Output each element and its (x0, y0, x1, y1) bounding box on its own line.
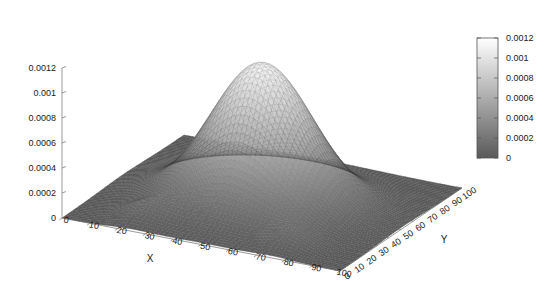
x-tick-label: 70 (255, 251, 267, 263)
z-tick-label: 0.0002 (28, 188, 56, 198)
colorbar-tick-label: 0.0004 (506, 113, 534, 123)
x-tick-label: 30 (144, 230, 156, 242)
z-tick-label: 0.0012 (28, 63, 56, 73)
z-tick-label: 0.0006 (28, 138, 56, 148)
colorbar-tick-label: 0.0012 (506, 33, 534, 43)
colorbar-tick-label: 0.0008 (506, 73, 534, 83)
x-tick-label: 90 (311, 262, 323, 274)
colorbar-tick-label: 0 (506, 153, 511, 163)
colorbar-tick-label: 0.0002 (506, 133, 534, 143)
z-tick-label: 0.0008 (28, 113, 56, 123)
y-axis-title: Y (441, 234, 448, 245)
x-tick-label: 20 (116, 225, 128, 237)
x-tick-label: 60 (227, 246, 239, 258)
plot-canvas: 00.00020.00040.00060.00080.0010.00120102… (0, 0, 554, 281)
z-tick-label: 0.0004 (28, 163, 56, 173)
x-tick-label: 80 (283, 257, 295, 269)
x-axis-title: X (147, 253, 154, 264)
x-tick-label: 40 (172, 235, 184, 247)
colorbar-tick-label: 0.001 (506, 53, 529, 63)
x-tick-label: 50 (199, 241, 211, 253)
surface-plot-figure: 00.00020.00040.00060.00080.0010.00120102… (0, 0, 554, 281)
z-tick-label: 0 (51, 213, 56, 223)
colorbar-tick-label: 0.0006 (506, 93, 534, 103)
z-tick-label: 0.001 (33, 88, 56, 98)
x-tick-label: 10 (88, 220, 100, 232)
